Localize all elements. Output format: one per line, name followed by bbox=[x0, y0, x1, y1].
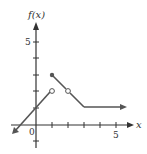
y-axis-arrow-icon bbox=[33, 22, 39, 30]
y-axis-label: f(x) bbox=[27, 9, 45, 20]
open-point-1-2 bbox=[50, 89, 55, 94]
origin-label: 0 bbox=[29, 127, 35, 137]
function-graph: f(x) x 0 5 5 bbox=[0, 0, 147, 154]
x-axis-label: x bbox=[136, 119, 142, 130]
open-point-2-2 bbox=[66, 89, 71, 94]
y-tick-label-5: 5 bbox=[25, 37, 31, 47]
x-tick-label-5: 5 bbox=[113, 130, 119, 140]
closed-point-1-3 bbox=[50, 73, 54, 77]
x-axis-arrow-icon bbox=[127, 122, 134, 128]
middle-segment-a bbox=[52, 75, 66, 89]
middle-segment-b bbox=[70, 93, 84, 107]
right-arrow-icon bbox=[120, 104, 127, 110]
